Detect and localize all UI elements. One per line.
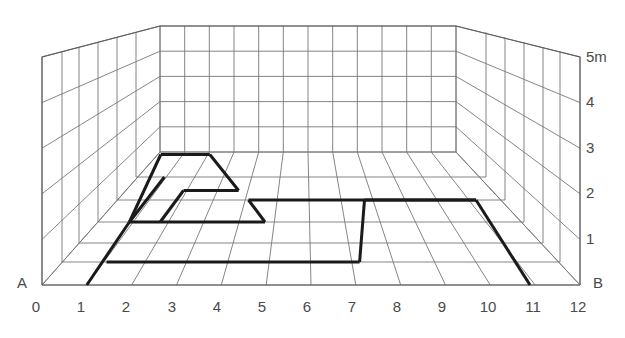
axis-tick-2: 2	[122, 298, 130, 315]
height-label-4: 4	[586, 93, 594, 110]
axis-tick-4: 4	[213, 298, 221, 315]
height-label-3: 3	[586, 139, 594, 156]
axis-tick-1: 1	[77, 298, 85, 315]
diagram-canvas: 0 1 2 3 4 5 6 7 8 9 10 11 12 A B 5m 4 3 …	[0, 0, 625, 338]
height-label-2: 2	[586, 184, 594, 201]
height-label-1: 1	[586, 230, 594, 247]
axis-tick-12: 12	[570, 298, 587, 315]
height-label-5m: 5m	[586, 48, 607, 65]
axis-tick-8: 8	[393, 298, 401, 315]
corner-label-a: A	[17, 274, 27, 291]
axis-tick-7: 7	[348, 298, 356, 315]
axis-tick-6: 6	[303, 298, 311, 315]
perspective-room-svg: 0 1 2 3 4 5 6 7 8 9 10 11 12 A B 5m 4 3 …	[0, 0, 625, 338]
corner-label-b: B	[593, 274, 603, 291]
axis-tick-10: 10	[480, 298, 497, 315]
axis-tick-11: 11	[525, 298, 541, 315]
axis-tick-0: 0	[32, 298, 40, 315]
axis-tick-3: 3	[168, 298, 176, 315]
axis-tick-9: 9	[438, 298, 446, 315]
canvas-background	[0, 0, 625, 338]
axis-tick-5: 5	[258, 298, 266, 315]
